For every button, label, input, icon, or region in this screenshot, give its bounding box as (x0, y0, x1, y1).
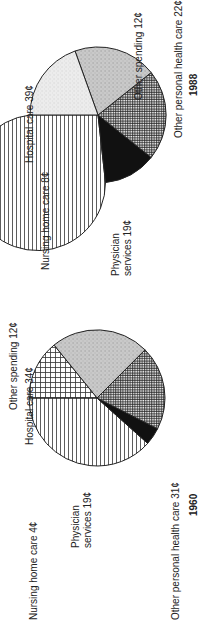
label-1988-other-spending: Other spending 12¢ (133, 12, 144, 100)
label-1988-hospital: Hospital care 39¢ (24, 85, 35, 163)
label-1960-physician-line2: services 19¢ (82, 492, 93, 548)
label-1960-physician-line1: Physician (70, 505, 81, 548)
slice-1988-hospital (0, 115, 106, 251)
label-1988-physician-line2: services 19¢ (122, 220, 133, 276)
label-1960-hospital: Hospital care 34¢ (24, 367, 35, 445)
pie-1960 (29, 330, 165, 466)
label-1988-nursing: Nursing home care 8¢ (40, 172, 51, 270)
chart-stage: Hospital care 34¢ Other spending 12¢ Oth… (0, 0, 204, 628)
label-1960-nursing: Nursing home care 4¢ (28, 522, 39, 620)
label-1960-other-spending: Other spending 12¢ (8, 322, 19, 410)
label-1960-other-personal: Other personal health care 31¢ (170, 482, 181, 620)
label-1988-physician-line1: Physician (110, 233, 121, 276)
label-1988-other-personal: Other personal health care 22¢ (173, 0, 184, 138)
year-1988: 1988 (188, 74, 199, 96)
year-1960: 1960 (188, 494, 199, 516)
